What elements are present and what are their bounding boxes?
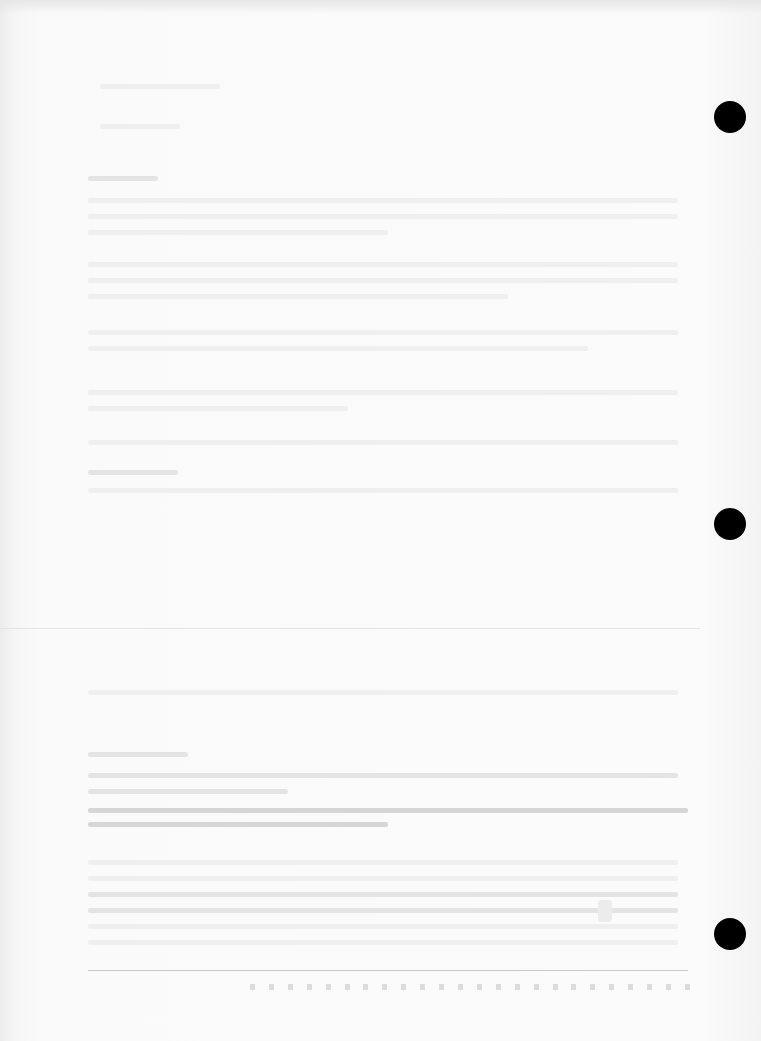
footer-rule [88, 970, 688, 971]
binder-hole-middle [714, 508, 746, 540]
binder-hole-top [714, 101, 746, 133]
scanned-page [0, 0, 761, 1041]
scan-edge-shadow [0, 0, 761, 14]
binder-hole-bottom [714, 918, 746, 950]
footer-character-row [250, 984, 690, 992]
faint-mark [598, 900, 612, 922]
fold-line [0, 628, 700, 629]
